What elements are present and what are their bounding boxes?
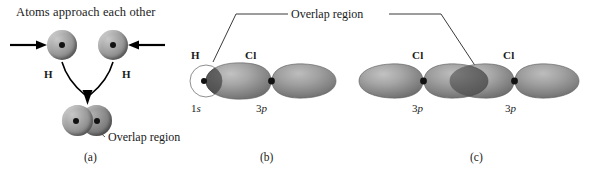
panel-c-orbital-l: p (418, 102, 424, 114)
panel-c-node-dot-right (511, 78, 518, 85)
orbital-overlap-figure: Atoms approach each other (0, 0, 595, 177)
panel-c-cl1-3p-outer-lobe (359, 64, 423, 98)
panel-c-orbitals (0, 0, 595, 177)
panel-c-node-dot-left (420, 78, 427, 85)
panel-c-caption: (c) (470, 152, 483, 164)
panel-c-label-cl-right: Cl (503, 50, 515, 61)
panel-c-orbital-label-left: 3p (412, 103, 423, 114)
panel-c-label-cl-left: Cl (412, 50, 424, 61)
panel-c-orbital-label-right: 3p (505, 103, 516, 114)
panel-c-orbital-l: p (511, 102, 517, 114)
panel-c-cl2-3p-outer-lobe (515, 64, 579, 98)
